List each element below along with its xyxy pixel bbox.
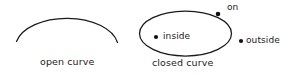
open-curve-arc (17, 18, 118, 42)
open-curve-caption: open curve (40, 56, 94, 67)
inside-point-dot (154, 35, 158, 39)
inside-point-label: inside (163, 31, 190, 42)
on-point-label: on (227, 2, 238, 13)
on-point-dot (216, 12, 221, 17)
outside-point-label: outside (246, 35, 280, 46)
outside-point-dot (239, 39, 243, 43)
curves-diagram: open curve closed curve inside on outsid… (0, 0, 289, 78)
closed-curve-caption: closed curve (152, 57, 213, 68)
